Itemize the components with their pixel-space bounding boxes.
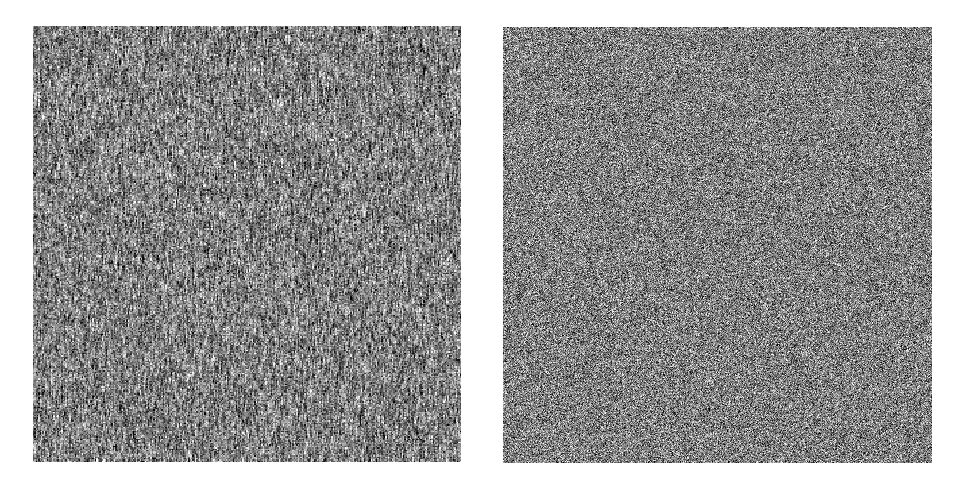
figure-root — [0, 0, 958, 488]
right-noise-canvas — [503, 27, 932, 463]
right-noise-image — [503, 27, 932, 463]
left-noise-canvas — [33, 26, 461, 462]
left-noise-image — [33, 26, 461, 462]
